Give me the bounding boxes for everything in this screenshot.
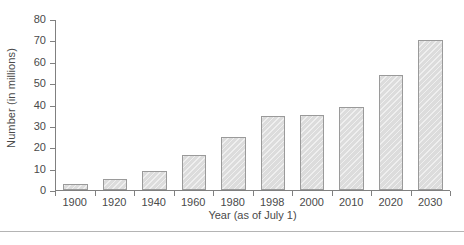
y-axis-tick-label: 80: [34, 13, 46, 25]
bar-slot: [332, 20, 371, 190]
x-axis-tick-slot-end: [450, 191, 451, 211]
bar-chart-figure: Number (in millions) 01020304050607080 1…: [0, 0, 464, 245]
x-axis-tick: [450, 191, 451, 196]
bar-1920: [103, 179, 127, 190]
y-axis-tick: 60: [50, 63, 55, 64]
bar-slot: [174, 20, 213, 190]
bar-2010: [339, 107, 363, 190]
bar-1900: [63, 184, 87, 190]
y-axis-title: Number (in millions): [2, 0, 20, 196]
bar-slot: [253, 20, 292, 190]
x-axis-tick-label: 1920: [95, 196, 135, 208]
bar-1998: [261, 116, 285, 190]
x-axis-tick-label: 2000: [292, 196, 332, 208]
x-axis-tick-slot: 1920: [95, 191, 135, 211]
x-axis-tick-slot: 2030: [411, 191, 451, 211]
y-axis-tick-label: 60: [34, 56, 46, 68]
bar-slot: [411, 20, 450, 190]
y-axis-tick-label: 20: [34, 141, 46, 153]
x-axis-tick-label: 2010: [332, 196, 372, 208]
x-axis-tick-label: 1940: [134, 196, 174, 208]
y-axis-tick: 30: [50, 127, 55, 128]
y-axis-tick: 50: [50, 84, 55, 85]
y-axis-title-text: Number (in millions): [5, 48, 17, 148]
x-axis-title: Year (as of July 1): [55, 209, 450, 221]
y-axis-tick-label: 70: [34, 34, 46, 46]
y-axis-tick: 80: [50, 20, 55, 21]
x-axis-tick-label: 2020: [371, 196, 411, 208]
bar-2030: [418, 40, 442, 190]
y-axis-tick: 40: [50, 106, 55, 107]
y-axis-tick-label: 50: [34, 77, 46, 89]
x-axis-tick-label: 1998: [253, 196, 293, 208]
x-axis-title-text: Year (as of July 1): [208, 209, 296, 221]
plot-area: 01020304050607080: [55, 20, 450, 191]
bar-slot: [56, 20, 95, 190]
x-axis-tick-slot: 1980: [213, 191, 253, 211]
bar-series: [56, 20, 450, 190]
x-axis-tick-label: 2030: [411, 196, 451, 208]
x-axis-tick-slot: 2000: [292, 191, 332, 211]
bar-slot: [371, 20, 410, 190]
y-axis-tick: 10: [50, 170, 55, 171]
x-axis-tick-slot: 1998: [253, 191, 293, 211]
x-axis-tick-label: 1980: [213, 196, 253, 208]
y-axis-tick-label: 0: [40, 184, 46, 196]
bar-slot: [292, 20, 331, 190]
x-axis-tick-slot: 2020: [371, 191, 411, 211]
bar-2000: [300, 115, 324, 190]
bar-slot: [95, 20, 134, 190]
bar-slot: [135, 20, 174, 190]
bar-slot: [214, 20, 253, 190]
x-axis-tick-slot: 1960: [174, 191, 214, 211]
y-axis-tick-label: 40: [34, 99, 46, 111]
footer-divider: [0, 231, 464, 232]
bar-2020: [379, 75, 403, 190]
bar-1940: [142, 171, 166, 190]
x-axis-ticks: 1900192019401960198019982000201020202030: [55, 191, 450, 211]
x-axis-tick-label: 1900: [55, 196, 95, 208]
x-axis-tick-label: 1960: [174, 196, 214, 208]
y-axis-tick-label: 10: [34, 163, 46, 175]
y-axis-tick-label: 30: [34, 120, 46, 132]
y-axis-tick: 70: [50, 41, 55, 42]
y-axis-tick: 20: [50, 148, 55, 149]
bar-1960: [182, 155, 206, 190]
x-axis-tick-slot: 1900: [55, 191, 95, 211]
x-axis-tick-slot: 2010: [332, 191, 372, 211]
x-axis-tick-slot: 1940: [134, 191, 174, 211]
bar-1980: [221, 137, 245, 190]
